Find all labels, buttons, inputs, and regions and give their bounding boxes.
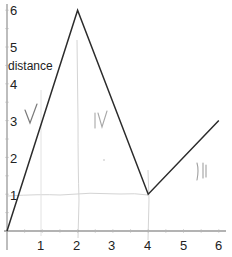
distance-series-line bbox=[7, 10, 219, 231]
x-tick-label: 4 bbox=[144, 238, 151, 253]
distance-line-chart: 1 2 3 4 5 6 1 2 3 4 5 6 distance bbox=[0, 0, 232, 257]
axes bbox=[4, 4, 226, 250]
x-tick-label: 5 bbox=[180, 238, 187, 253]
handwritten-annotations bbox=[25, 104, 206, 180]
x-tick-label: 6 bbox=[215, 238, 222, 253]
y-tick-label: 5 bbox=[10, 40, 17, 55]
pencil-dot bbox=[103, 159, 105, 161]
y-axis-label: distance bbox=[8, 59, 53, 73]
x-tick-labels: 1 2 3 4 5 6 bbox=[37, 238, 222, 253]
handwritten-iv-mark bbox=[95, 111, 107, 128]
y-tick-label: 2 bbox=[10, 151, 17, 166]
x-tick-label: 2 bbox=[73, 238, 80, 253]
handwritten-ii-mark bbox=[197, 163, 206, 180]
handwritten-v-mark bbox=[25, 104, 37, 123]
y-tick-label: 3 bbox=[10, 114, 17, 129]
y-tick-label: 6 bbox=[10, 3, 17, 18]
y-tick-label: 4 bbox=[10, 77, 17, 92]
x-tick-label: 1 bbox=[37, 238, 44, 253]
y-tick-labels: 1 2 3 4 5 6 bbox=[10, 3, 17, 203]
x-tick-label: 3 bbox=[108, 238, 115, 253]
